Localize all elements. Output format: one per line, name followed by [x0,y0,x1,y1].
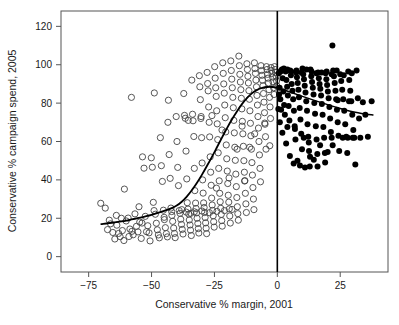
data-point-filled [299,146,305,152]
data-point-filled [332,88,338,94]
data-point-filled [328,129,334,135]
data-point-filled [325,149,331,155]
data-point-filled [303,90,309,96]
data-point-filled [306,148,312,154]
data-point-filled [301,135,307,141]
data-point-filled [304,108,310,114]
data-point-filled [350,135,356,141]
y-tick-label: 100 [35,59,52,70]
data-point-filled [318,92,324,98]
data-point-filled [369,98,375,104]
data-point-filled [341,72,347,78]
data-point-filled [355,95,361,101]
data-point-filled [275,106,281,112]
y-tick-label: 40 [41,174,53,185]
data-point-filled [288,68,294,74]
y-tick-label: 20 [41,213,53,224]
data-point-filled [294,74,300,80]
data-point-filled [346,77,352,83]
data-point-filled [283,140,289,146]
data-point-filled [335,119,341,125]
data-point-filled [329,43,335,49]
data-point-filled [311,91,317,97]
data-point-filled [327,115,333,121]
y-tick-label: 80 [41,98,53,109]
data-point-filled [323,76,329,82]
data-point-filled [324,68,330,74]
data-point-filled [356,115,362,121]
data-point-filled [324,82,330,88]
data-point-filled [312,111,318,117]
data-point-filled [306,139,312,145]
data-point-filled [342,121,348,127]
data-point-filled [339,87,345,93]
x-tick-label: −50 [143,280,160,291]
data-point-filled [292,137,298,143]
data-point-filled [302,164,308,170]
data-point-filled [329,71,335,77]
data-point-filled [365,134,371,140]
y-tick-label: 60 [41,136,53,147]
data-point-filled [287,153,293,159]
y-tick-label: 120 [35,21,52,32]
data-point-filled [360,99,366,105]
data-point-filled [317,86,323,92]
data-point-filled [350,127,356,133]
data-point-filled [310,85,316,91]
data-point-filled [347,88,353,94]
data-point-filled [298,69,304,75]
data-point-filled [336,148,342,154]
data-point-filled [330,142,336,148]
data-point-filled [349,70,355,76]
data-point-filled [311,157,317,163]
data-point-filled [302,83,308,89]
data-point-filled [321,135,327,141]
data-point-filled [332,80,338,86]
data-point-filled [283,77,289,83]
data-point-filled [290,96,296,102]
data-point-filled [289,81,295,87]
scatter-plot-figure: −75−50−25025 020406080100120 Conservativ… [0,0,399,325]
x-tick-label: 0 [275,280,281,291]
data-point-filled [334,67,340,73]
y-axis-title: Conservative % campaign spend, 2005 [6,49,18,232]
data-point-filled [297,105,303,111]
data-point-filled [313,70,319,76]
data-point-filled [317,142,323,148]
data-point-filled [322,160,328,166]
data-point-filled [295,80,301,86]
data-point-filled [335,97,341,103]
data-point-filled [295,87,301,93]
x-tick-label: −75 [80,280,97,291]
data-point-filled [338,78,344,84]
data-point-filled [320,112,326,118]
data-point-filled [286,103,292,109]
data-point-filled [301,76,307,82]
data-point-filled [279,130,285,136]
data-point-filled [314,137,320,143]
data-point-filled [305,121,311,127]
data-point-filled [282,112,288,118]
data-point-filled [357,135,363,141]
x-tick-label: 25 [335,280,347,291]
data-point-filled [326,95,332,101]
data-point-filled [297,116,303,122]
data-point-filled [285,92,291,98]
data-point-filled [292,126,298,132]
plot-svg: −75−50−25025 020406080100120 Conservativ… [0,0,399,325]
data-point-filled [320,124,326,130]
data-point-filled [325,89,331,95]
data-point-filled [315,163,321,169]
data-point-filled [284,124,290,130]
data-point-filled [346,98,352,104]
x-axis-title: Conservative % margin, 2001 [155,298,293,310]
data-point-filled [352,162,358,168]
data-point-filled [314,151,320,157]
data-point-filled [309,79,315,85]
data-point-filled [329,135,335,141]
data-point-filled [313,123,319,129]
data-point-filled [344,150,350,156]
y-tick-label: 0 [46,251,52,262]
data-point-filled [286,117,292,123]
data-point-filled [340,96,346,102]
